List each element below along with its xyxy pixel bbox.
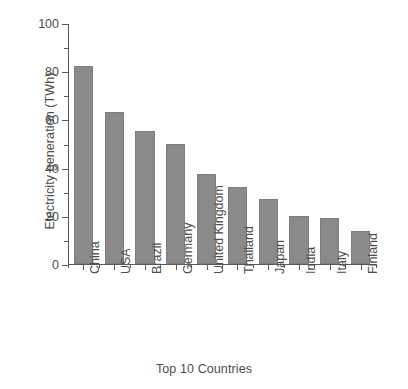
y-tick-mark bbox=[64, 193, 68, 194]
x-tick-mark bbox=[207, 265, 208, 270]
x-tick-label: India bbox=[304, 247, 318, 274]
x-tick-mark bbox=[361, 265, 362, 270]
y-tick-label: 0 bbox=[52, 258, 59, 272]
x-minor-tick bbox=[68, 265, 69, 268]
bar bbox=[105, 112, 124, 264]
x-tick-mark bbox=[299, 265, 300, 270]
plot-area: 020406080100 ChinaUSABrazilGermanyUnited… bbox=[68, 24, 376, 265]
x-tick-label: Japan bbox=[273, 240, 287, 274]
y-tick-mark bbox=[62, 120, 68, 121]
bar bbox=[74, 66, 93, 264]
x-axis-title: Top 10 Countries bbox=[0, 362, 408, 376]
y-tick-mark bbox=[62, 169, 68, 170]
x-tick-label: Italy bbox=[335, 251, 349, 274]
x-tick-mark bbox=[114, 265, 115, 270]
y-tick-label: 20 bbox=[45, 210, 59, 224]
x-tick-mark bbox=[330, 265, 331, 270]
x-tick-label: Finland bbox=[366, 233, 380, 274]
bar-chart-figure: Electricity generation (TWh) 02040608010… bbox=[0, 0, 408, 389]
y-axis-line bbox=[68, 24, 69, 265]
x-tick-label: United Kingdom bbox=[212, 185, 226, 274]
x-tick-mark bbox=[237, 265, 238, 270]
x-tick-label: Thailand bbox=[242, 226, 256, 274]
y-tick-mark bbox=[64, 145, 68, 146]
y-tick-label: 80 bbox=[45, 65, 59, 79]
x-tick-label: Germany bbox=[181, 223, 195, 274]
y-tick-mark bbox=[64, 48, 68, 49]
y-tick-label: 100 bbox=[38, 17, 59, 31]
y-tick-mark bbox=[62, 217, 68, 218]
y-tick-mark bbox=[64, 96, 68, 97]
y-tick-label: 40 bbox=[45, 162, 59, 176]
y-axis-title: Electricity generation (TWh) bbox=[43, 21, 57, 281]
x-tick-label: Brazil bbox=[150, 243, 164, 274]
x-tick-mark bbox=[83, 265, 84, 270]
y-tick-mark bbox=[62, 72, 68, 73]
x-tick-mark bbox=[176, 265, 177, 270]
x-tick-label: China bbox=[88, 241, 102, 274]
y-tick-label: 60 bbox=[45, 113, 59, 127]
x-tick-label: USA bbox=[119, 248, 133, 274]
y-tick-mark bbox=[64, 241, 68, 242]
x-tick-mark bbox=[268, 265, 269, 270]
y-tick-mark bbox=[62, 24, 68, 25]
x-tick-mark bbox=[145, 265, 146, 270]
